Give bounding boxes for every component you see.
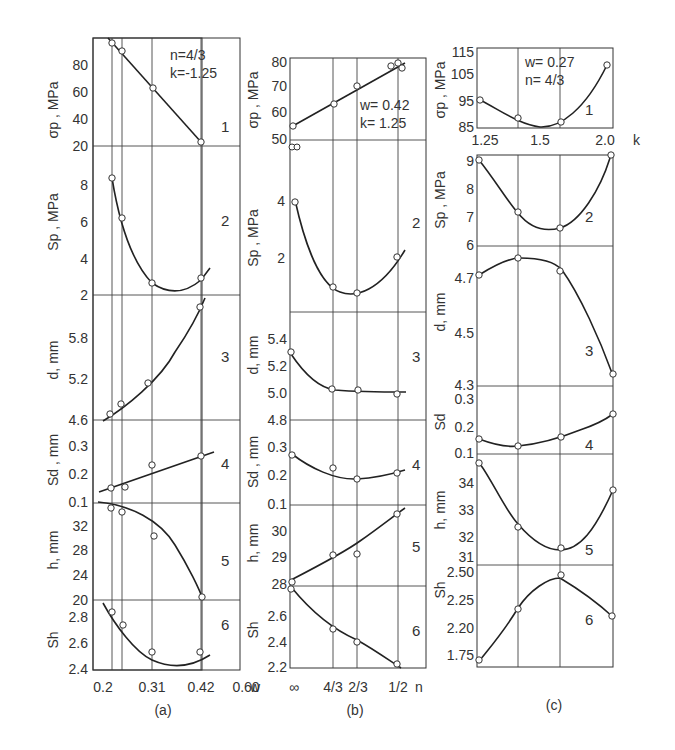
b-annotation-w: w= 0.42 <box>359 97 410 113</box>
a-curve-2 <box>112 178 210 291</box>
a-ylabel-1: σp , MPa <box>45 81 61 138</box>
svg-text:1.25: 1.25 <box>471 132 498 148</box>
panel-label-a: (a) <box>154 702 171 718</box>
svg-text:4: 4 <box>221 455 229 472</box>
svg-text:6: 6 <box>585 611 593 628</box>
a-ylabel-4: Sd , mm <box>45 434 61 486</box>
svg-text:0.2: 0.2 <box>455 419 475 435</box>
a-ylabel-6: Sh <box>45 631 61 648</box>
svg-text:20: 20 <box>72 592 88 608</box>
svg-text:5: 5 <box>221 552 229 569</box>
svg-text:∞: ∞ <box>289 679 299 695</box>
svg-text:2.20: 2.20 <box>447 620 474 636</box>
a-annotation-n: n=4/3 <box>170 47 206 63</box>
svg-text:2: 2 <box>585 208 593 225</box>
panel-b: σp , MPa Sp , MPa d, mm Sd , mm h, mm Sh… <box>245 54 426 718</box>
b-ylabel-5: h, mm <box>245 524 261 563</box>
panel-label-c: (c) <box>546 697 562 713</box>
svg-text:2/3: 2/3 <box>348 679 368 695</box>
svg-text:6: 6 <box>466 237 474 253</box>
svg-text:32: 32 <box>72 518 88 534</box>
b-curve-4 <box>292 454 405 479</box>
b-ylabel-3: d, mm <box>245 336 261 375</box>
svg-text:1: 1 <box>585 101 593 118</box>
svg-text:29: 29 <box>271 549 287 565</box>
c-ylabel-4: Sd <box>432 413 448 430</box>
a-curve-6 <box>103 603 210 665</box>
svg-text:0.1: 0.1 <box>69 494 89 510</box>
svg-text:2.8: 2.8 <box>69 609 89 625</box>
b-ylabel-4: Sd , mm <box>245 436 261 488</box>
svg-text:30: 30 <box>271 523 287 539</box>
svg-text:0.2: 0.2 <box>93 679 113 695</box>
a-curve-5 <box>98 502 203 600</box>
svg-text:5: 5 <box>412 538 420 555</box>
svg-text:4: 4 <box>585 436 593 453</box>
svg-text:0.3: 0.3 <box>69 438 89 454</box>
svg-text:6: 6 <box>221 616 229 633</box>
c-ylabel-1: σp , MPa <box>432 61 448 118</box>
svg-text:4: 4 <box>80 251 88 267</box>
svg-text:2.2: 2.2 <box>268 659 288 675</box>
svg-text:4.5: 4.5 <box>455 325 475 341</box>
b-points <box>288 60 405 667</box>
svg-text:7: 7 <box>466 209 474 225</box>
b-curve-6 <box>292 588 401 668</box>
svg-text:0.1: 0.1 <box>455 445 475 461</box>
a-curve-4 <box>99 452 214 492</box>
svg-text:4.7: 4.7 <box>455 270 475 286</box>
svg-text:6: 6 <box>412 622 420 639</box>
svg-text:33: 33 <box>458 502 474 518</box>
panel-c: σp , MPa Sp , MPa d, mm Sd h, mm Sh 85 9… <box>432 44 641 713</box>
c-ylabel-6: Sh <box>432 581 448 598</box>
c-subplot-numbers: 1 2 3 4 5 6 <box>585 101 593 628</box>
b-ylabel-2: Sp , MPa <box>245 209 261 267</box>
svg-text:5: 5 <box>585 541 593 558</box>
c-xlabel: k <box>633 132 641 148</box>
svg-text:80: 80 <box>72 57 88 73</box>
a-annotation-k: k=-1.25 <box>170 65 217 81</box>
c-yticks: 85 95 105 115 6 7 8 9 4.3 4.5 4.7 0.1 0.… <box>447 44 474 663</box>
svg-text:4: 4 <box>412 456 420 473</box>
svg-text:1: 1 <box>221 118 229 135</box>
svg-text:0.3: 0.3 <box>455 391 475 407</box>
svg-text:31: 31 <box>458 549 474 565</box>
svg-text:4: 4 <box>277 193 285 209</box>
svg-text:40: 40 <box>72 111 88 127</box>
a-xticks: 0.2 0.31 0.42 0.60 <box>93 679 260 695</box>
svg-text:70: 70 <box>271 78 287 94</box>
panel-a: σp , MPa Sp , MPa d, mm Sd , mm h, mm Sh… <box>45 38 261 718</box>
a-ylabel-5: h, mm <box>45 531 61 570</box>
svg-text:4.6: 4.6 <box>69 412 89 428</box>
svg-text:2.50: 2.50 <box>447 564 474 580</box>
svg-text:32: 32 <box>458 529 474 545</box>
a-subplot-numbers: 1 2 3 4 5 6 <box>221 118 229 633</box>
b-yticks: 50 60 70 80 2 4 4.8 5.0 5.2 5.4 0.1 0.2 … <box>268 54 288 675</box>
svg-text:9: 9 <box>466 153 474 169</box>
a-ylabel-3: d, mm <box>45 341 61 380</box>
b-ylabel-6: Sh <box>245 621 261 638</box>
svg-text:3: 3 <box>221 348 229 365</box>
svg-text:4/3: 4/3 <box>323 679 343 695</box>
a-xlabel: w <box>249 679 261 695</box>
b-curve-2 <box>295 200 405 294</box>
svg-text:3: 3 <box>585 342 593 359</box>
a-yticks: 20 40 60 80 2 4 6 8 4.6 5.2 5.8 0.1 0.2 … <box>69 57 89 677</box>
b-subplot-numbers: 2 3 4 5 6 <box>412 214 420 639</box>
c-annotation-w: w= 0.27 <box>524 54 575 70</box>
svg-text:6: 6 <box>80 214 88 230</box>
svg-text:5.2: 5.2 <box>268 358 288 374</box>
svg-text:80: 80 <box>271 54 287 70</box>
c-annotation-n: n= 4/3 <box>525 72 565 88</box>
c-xticks: 1.25 1.5 2.0 <box>471 132 615 148</box>
svg-text:0.1: 0.1 <box>268 496 288 512</box>
b-annotation-k: k= 1.25 <box>360 115 407 131</box>
svg-text:5.4: 5.4 <box>268 331 288 347</box>
b-curve-5 <box>291 508 405 580</box>
svg-text:5.2: 5.2 <box>69 371 89 387</box>
svg-text:60: 60 <box>271 104 287 120</box>
svg-text:8: 8 <box>80 177 88 193</box>
a-ylabel-2: Sp , MPa <box>45 193 61 251</box>
c-curve-5 <box>480 464 613 550</box>
b-curve-3 <box>291 354 406 392</box>
